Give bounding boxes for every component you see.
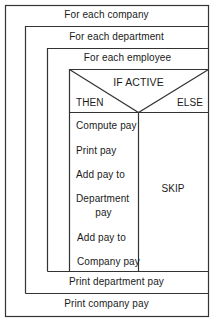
- then-step: Add pay to: [77, 232, 126, 244]
- then-step: Company pay: [77, 256, 140, 268]
- else-step: SKIP: [138, 183, 208, 195]
- then-step: Department: [76, 193, 129, 205]
- department-loop-box: [26, 27, 209, 294]
- print-department-pay: Print department pay: [25, 276, 208, 288]
- condition-label: IF ACTIVE: [69, 76, 208, 88]
- else-label: ELSE: [177, 97, 203, 109]
- company-loop-label: For each company: [5, 9, 208, 21]
- nassi-shneiderman-diagram: For each company For each department For…: [0, 0, 215, 323]
- then-step: pay: [69, 207, 138, 219]
- then-label: THEN: [76, 97, 104, 109]
- employee-loop-label: For each employee: [47, 52, 208, 64]
- then-step: Add pay to: [76, 169, 125, 181]
- diagram-lines: [0, 0, 215, 323]
- department-loop-label: For each department: [25, 31, 208, 43]
- print-company-pay: Print company pay: [5, 298, 208, 310]
- then-step: Compute pay: [76, 120, 137, 132]
- then-step: Print pay: [76, 145, 116, 157]
